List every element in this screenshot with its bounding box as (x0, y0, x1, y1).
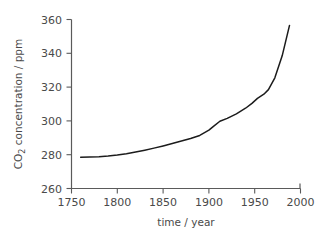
co2-chart-figure: 360 340 320 300 280 260 1750 1800 1850 1… (0, 0, 323, 238)
x-tick-marks (72, 189, 301, 194)
x-axis-title: time / year (157, 216, 215, 228)
y-tick-label-360: 360 (41, 14, 62, 27)
y-axis-title: CO2 concentration / ppm (12, 39, 27, 170)
x-tick-label-1950: 1950 (241, 196, 269, 209)
x-tick-labels: 1750 1800 1850 1900 1950 2000 (58, 196, 315, 209)
co2-series-line (81, 25, 290, 157)
y-tick-label-300: 300 (41, 115, 62, 128)
y-tick-label-320: 320 (41, 81, 62, 94)
x-tick-label-1850: 1850 (149, 196, 177, 209)
y-tick-label-260: 260 (41, 183, 62, 196)
y-tick-label-340: 340 (41, 47, 62, 60)
x-tick-label-1900: 1900 (195, 196, 223, 209)
x-tick-label-1750: 1750 (58, 196, 86, 209)
chart-canvas: 360 340 320 300 280 260 1750 1800 1850 1… (0, 0, 323, 238)
y-tick-labels: 360 340 320 300 280 260 (41, 14, 62, 196)
x-tick-label-1800: 1800 (103, 196, 131, 209)
y-axis-title-suffix: concentration / ppm (12, 39, 24, 149)
y-tick-marks (67, 20, 72, 189)
x-tick-label-2000: 2000 (287, 196, 315, 209)
y-axis-title-prefix: CO (12, 154, 24, 170)
y-tick-label-280: 280 (41, 149, 62, 162)
